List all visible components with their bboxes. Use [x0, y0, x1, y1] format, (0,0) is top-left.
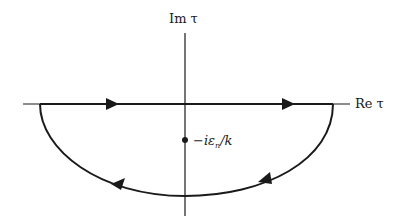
real-axis-label: Re τ [355, 96, 384, 111]
imaginary-axis-label: Im τ [169, 11, 198, 26]
contour-diagram: Im τ Re τ −iεn/k [0, 0, 399, 224]
arrow-right-icon [282, 98, 295, 110]
pole-label: −iεn/k [193, 133, 233, 150]
arrow-right-icon [106, 98, 119, 110]
pole-label-tail: /k [218, 133, 232, 148]
arrow-up-left-icon [111, 178, 125, 190]
pole-label-main: −iε [193, 133, 215, 148]
contour-lower-arc [40, 104, 333, 196]
arrow-down-left-icon [258, 172, 272, 184]
pole-point [182, 137, 188, 143]
